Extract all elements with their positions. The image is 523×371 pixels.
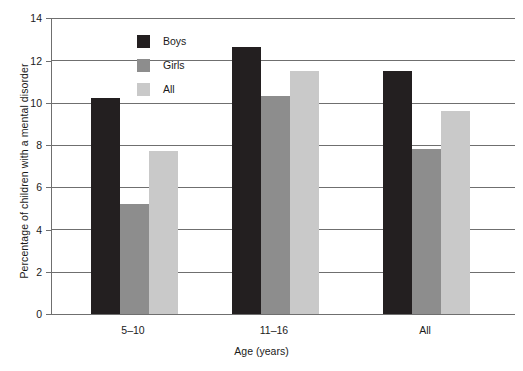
- bar-chart: Percentage of children with a mental dis…: [0, 0, 523, 371]
- y-axis-line: [51, 18, 52, 315]
- legend-item-boys: Boys: [137, 29, 186, 53]
- x-tick-label-11-16: 11–16: [214, 324, 334, 336]
- legend-label-boys: Boys: [163, 35, 186, 47]
- bar-girls-all: [412, 149, 441, 314]
- y-tick-label-12: 12: [12, 56, 42, 66]
- y-tick-label-0: 0: [12, 309, 42, 319]
- legend-label-all: All: [163, 83, 175, 95]
- bar-boys-11-16: [232, 47, 261, 314]
- legend-swatch-boys-icon: [137, 35, 150, 48]
- legend-swatch-girls-icon: [137, 59, 150, 72]
- y-tick-label-4: 4: [12, 225, 42, 235]
- y-tick-label-2: 2: [12, 267, 42, 277]
- y-tick-label-6: 6: [12, 182, 42, 192]
- legend-label-girls: Girls: [163, 59, 185, 71]
- plot-area: [52, 18, 515, 314]
- legend-swatch-all-icon: [137, 83, 150, 96]
- chart-legend: Boys Girls All: [137, 29, 186, 101]
- bar-all-11-16: [290, 71, 319, 314]
- y-tick-label-10: 10: [12, 98, 42, 108]
- x-axis-line: [51, 314, 515, 315]
- y-tick-label-8: 8: [12, 140, 42, 150]
- y-tick-label-14: 14: [12, 13, 42, 23]
- bar-all-5-10: [149, 151, 178, 314]
- bar-boys-all: [383, 71, 412, 314]
- gridline-12: [52, 60, 515, 61]
- bar-all-all: [441, 111, 470, 314]
- legend-item-girls: Girls: [137, 53, 186, 77]
- bar-boys-5-10: [91, 98, 120, 314]
- x-axis-title: Age (years): [0, 345, 523, 357]
- bar-girls-5-10: [120, 204, 149, 314]
- gridline-14: [52, 18, 515, 19]
- x-tick-label-5-10: 5–10: [73, 324, 193, 336]
- bar-girls-11-16: [261, 96, 290, 314]
- legend-item-all: All: [137, 77, 186, 101]
- x-tick-label-all: All: [365, 324, 485, 336]
